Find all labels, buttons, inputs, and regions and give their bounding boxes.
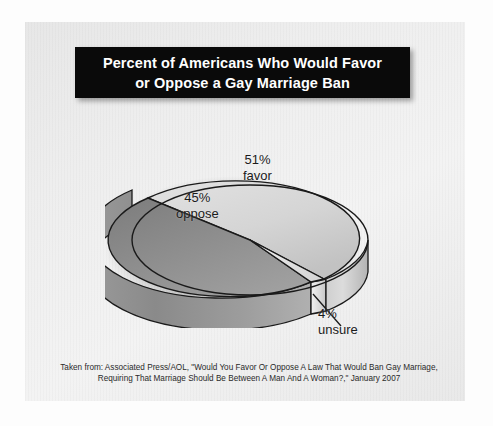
pie-label-oppose-name: oppose	[176, 206, 219, 222]
pie-label-favor: 51% favor	[243, 152, 272, 184]
pie-label-unsure-value: 4%	[318, 306, 358, 322]
chart-title-box: Percent of Americans Who Would Favor or …	[75, 47, 410, 98]
chart-source-note: Taken from: Associated Press/AOL, "Would…	[40, 362, 458, 384]
pie-label-oppose-value: 45%	[176, 190, 219, 206]
chart-title-line-1: Percent of Americans Who Would Favor	[103, 53, 382, 73]
pie-label-favor-name: favor	[243, 168, 272, 184]
pie-label-unsure-name: unsure	[318, 322, 358, 338]
chart-source-line-1: Taken from: Associated Press/AOL, "Would…	[40, 362, 458, 373]
pie-label-favor-value: 51%	[243, 152, 272, 168]
chart-title-line-2: or Oppose a Gay Marriage Ban	[135, 73, 350, 93]
chart-image: Percent of Americans Who Would Favor or …	[0, 0, 493, 426]
chart-source-line-2: Requiring That Marriage Should Be Betwee…	[40, 373, 458, 384]
pie-label-oppose: 45% oppose	[176, 190, 219, 222]
pie-label-unsure: 4% unsure	[318, 306, 358, 338]
